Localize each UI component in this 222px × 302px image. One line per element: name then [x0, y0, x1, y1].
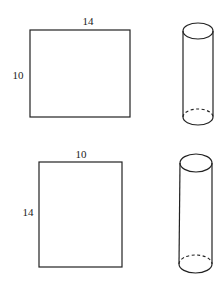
rectangle-1-side-label: 10 [13, 69, 25, 81]
cylinder-1-top [183, 23, 213, 39]
rectangle-1 [30, 30, 130, 117]
rectangle-2-top-label: 10 [76, 148, 88, 160]
figure-2: 10 14 [23, 148, 213, 273]
cylinder-2-top [180, 154, 212, 172]
cylinder-2-left-side [179, 163, 180, 264]
cylinder-1 [183, 23, 213, 125]
rectangle-1-top-label: 14 [83, 15, 95, 27]
cylinder-1-bottom-front [183, 117, 213, 125]
diagram: 14 10 10 14 [0, 0, 222, 302]
figure-1: 14 10 [13, 15, 214, 125]
rectangle-2 [39, 162, 122, 267]
cylinder-2 [179, 154, 212, 273]
cylinder-2-bottom-back [179, 255, 212, 264]
rectangle-2-side-label: 14 [23, 206, 35, 218]
cylinder-2-bottom-front [179, 264, 212, 273]
cylinder-1-bottom-back [183, 109, 213, 117]
